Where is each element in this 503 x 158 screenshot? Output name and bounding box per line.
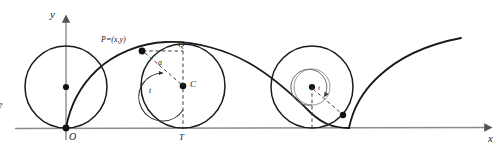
x-axis-label: x xyxy=(488,133,493,144)
cycloid-arch-1 xyxy=(66,42,349,128)
center-label-C: C xyxy=(190,80,196,89)
contact-point-label-T: T xyxy=(179,133,184,142)
angle-arc-t-circle-3 xyxy=(291,69,327,105)
dashed-radius-CP xyxy=(145,53,181,84)
angle-arc-t xyxy=(139,73,183,121)
angle-label-t: t xyxy=(149,87,151,95)
angle-label-t-circle-3: t xyxy=(318,85,320,92)
y-axis-label: y xyxy=(50,9,55,20)
x-axis-line xyxy=(15,128,487,129)
point-P3-dot xyxy=(340,112,346,118)
point-label-P: P=(x,y) xyxy=(101,36,126,44)
circle-1-center-dot xyxy=(63,84,69,90)
dashed-radius-circle-3 xyxy=(313,89,342,114)
point-label-Q: Q xyxy=(178,40,185,49)
cycloid-arch-2 xyxy=(349,38,461,128)
left-edge-text-fragment: e xyxy=(0,100,2,110)
rolling-circles xyxy=(25,44,353,128)
point-P-dot xyxy=(139,48,146,55)
cycloid-curve-group xyxy=(66,38,461,128)
radius-label-a: a xyxy=(158,59,162,67)
cycloid-figure: y x O T P=(x,y) Q C a t t e xyxy=(0,0,503,158)
origin-label: O xyxy=(69,132,76,142)
axis-group xyxy=(15,20,487,140)
